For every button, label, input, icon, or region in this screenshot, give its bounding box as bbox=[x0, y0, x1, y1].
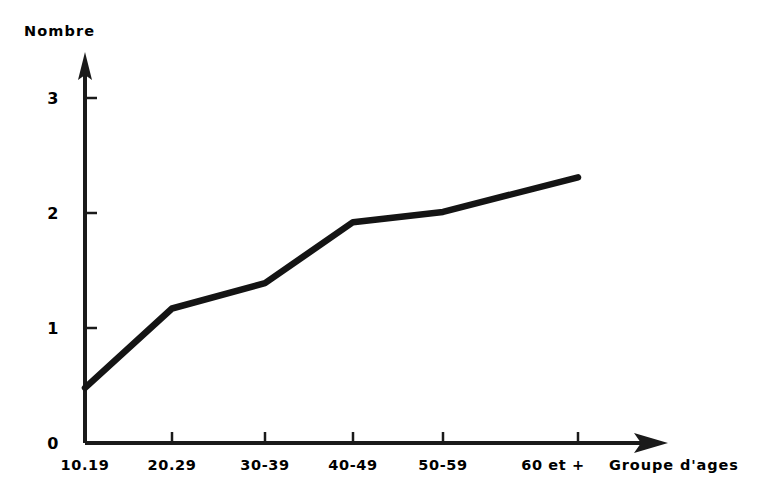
line-chart: Nombre 3 2 1 0 10.19 20.29 30-39 40- bbox=[0, 0, 763, 502]
y-tick-label-0: 0 bbox=[47, 434, 59, 453]
y-tick-label-3: 3 bbox=[47, 89, 59, 108]
x-tick-label-30-39: 30-39 bbox=[240, 457, 289, 473]
x-tick-label-10-19: 10.19 bbox=[61, 457, 110, 473]
data-series-line bbox=[85, 177, 578, 387]
x-tick-label-20-29: 20.29 bbox=[148, 457, 197, 473]
x-tick-label-40-49: 40-49 bbox=[328, 457, 377, 473]
x-tick-label-50-59: 50-59 bbox=[418, 457, 467, 473]
chart-canvas: Nombre 3 2 1 0 10.19 20.29 30-39 40- bbox=[0, 0, 763, 502]
y-axis-title: Nombre bbox=[24, 23, 95, 39]
y-tick-label-2: 2 bbox=[47, 204, 59, 223]
x-axis-title: Groupe d'ages bbox=[609, 457, 739, 473]
y-tick-label-1: 1 bbox=[47, 319, 59, 338]
x-tick-label-60-plus: 60 et + bbox=[521, 457, 584, 473]
